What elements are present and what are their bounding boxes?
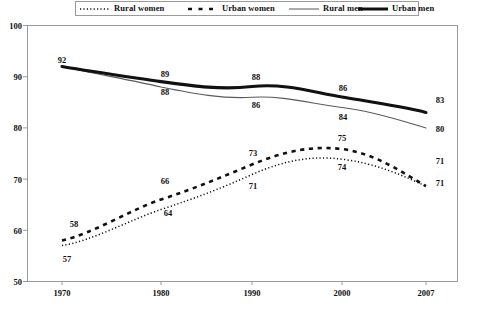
- label-urban-men-2000: 86: [339, 83, 348, 93]
- series-line-rural-women: [62, 158, 426, 246]
- label-urban-men-2007: 83: [436, 95, 445, 105]
- series-line-urban-men: [62, 67, 426, 113]
- label-urban-women-1970: 58: [70, 219, 79, 229]
- label-urban-women-1980: 66: [161, 176, 170, 186]
- y-tick-marks: [23, 26, 28, 282]
- label-men-1970: 92: [58, 55, 67, 65]
- label-rural-women-1990: 71: [249, 181, 258, 191]
- label-rural-women-2000: 74: [338, 162, 347, 172]
- label-urban-men-1980: 89: [161, 69, 170, 79]
- label-rural-women-1970: 57: [63, 254, 72, 264]
- label-urban-women-2000: 75: [338, 133, 347, 143]
- label-rural-men-1980: 88: [161, 87, 170, 97]
- label-rural-men-2007: 80: [436, 124, 445, 134]
- label-rural-women-1980: 64: [164, 208, 173, 218]
- x-tick-marks: [62, 282, 426, 286]
- plot-area: [0, 0, 482, 311]
- label-rural-men-1990: 86: [252, 100, 261, 110]
- plot-frame: [28, 26, 458, 282]
- label-rural-men-2000: 84: [339, 112, 348, 122]
- series-line-urban-women: [62, 148, 426, 241]
- label-urban-women-1990: 73: [249, 148, 258, 158]
- label-urban-women-2007: 71: [436, 156, 445, 166]
- label-urban-men-1990: 88: [252, 72, 261, 82]
- line-chart: Rural women Urban women Rural men: [0, 0, 482, 311]
- label-rural-women-2007: 71: [436, 178, 445, 188]
